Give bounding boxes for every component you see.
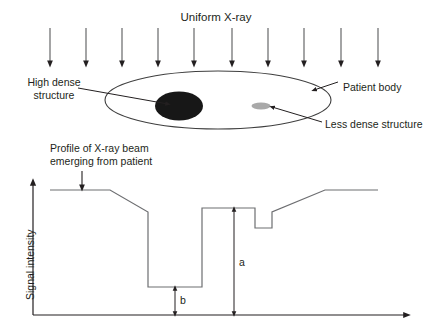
patient-body-label: Patient body <box>343 81 401 93</box>
less-dense-structure-label: Less dense structure <box>325 118 422 130</box>
figure-canvas: Uniform X-ray High dense structure Patie… <box>0 0 432 333</box>
y-axis-label: Signal intensity <box>24 229 36 300</box>
less-dense-leader-line <box>272 107 322 122</box>
signal-profile-curve <box>50 190 378 287</box>
profile-annotation-line2: emerging from patient <box>50 155 152 167</box>
high-dense-structure-label-line2: structure <box>8 89 100 101</box>
patient-body-ellipse <box>105 71 331 129</box>
less-dense-structure-shape <box>252 103 271 110</box>
xray-beam-arrows <box>50 28 378 64</box>
uniform-xray-title: Uniform X-ray <box>166 11 266 25</box>
measure-a-label: a <box>239 256 245 268</box>
profile-annotation-line1: Profile of X-ray beam <box>50 142 149 154</box>
high-dense-structure-shape <box>155 92 203 121</box>
measure-b-label: b <box>180 294 186 306</box>
high-dense-structure-label-line1: High dense <box>8 76 100 88</box>
